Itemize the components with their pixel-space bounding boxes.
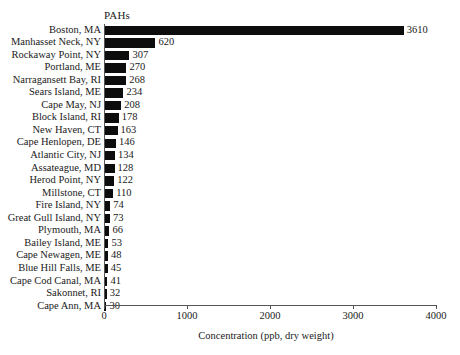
- bar-row: Sears Island, ME234: [104, 87, 436, 100]
- bar: [104, 38, 155, 47]
- bar-row: Portland, ME270: [104, 62, 436, 75]
- x-axis-tick-label: 1000: [177, 310, 198, 321]
- category-label: Portland, ME: [44, 60, 101, 73]
- category-label: Plymouth, MA: [38, 223, 101, 236]
- bar: [104, 63, 126, 72]
- bar-chart: PAHs Boston, MA3610Manhasset Neck, NY620…: [0, 0, 460, 355]
- bar: [104, 126, 118, 135]
- bar-value-label: 208: [121, 98, 140, 111]
- category-label: Assateague, MD: [31, 161, 101, 174]
- bar: [104, 164, 115, 173]
- bar-row: Great Gull Island, NY73: [104, 212, 436, 225]
- category-label: Blue Hill Falls, ME: [18, 261, 101, 274]
- bar: [104, 176, 114, 185]
- category-label: Manhasset Neck, NY: [11, 35, 101, 48]
- bar-row: Blue Hill Falls, ME45: [104, 262, 436, 275]
- bar-value-label: 234: [123, 85, 142, 98]
- bar-row: Assateague, MD128: [104, 162, 436, 175]
- bar-row: Sakonnet, RI32: [104, 288, 436, 301]
- bar-row: Fire Island, NY74: [104, 200, 436, 213]
- category-label: New Haven, CT: [32, 123, 101, 136]
- bar-row: Block Island, RI178: [104, 112, 436, 125]
- bar-row: Herod Point, NY122: [104, 175, 436, 188]
- bar-value-label: 122: [114, 173, 133, 186]
- category-label: Cape Henlopen, DE: [17, 135, 101, 148]
- category-label: Great Gull Island, NY: [8, 211, 101, 224]
- bar-row: Millstone, CT110: [104, 187, 436, 200]
- bar-value-label: 73: [110, 211, 124, 224]
- bar: [104, 88, 123, 97]
- bar-row: New Haven, CT163: [104, 124, 436, 137]
- bar-row: Cape Newagen, ME48: [104, 250, 436, 263]
- bar-value-label: 134: [115, 148, 134, 161]
- x-axis-tick-label: 3000: [343, 310, 364, 321]
- bar-value-label: 66: [109, 223, 123, 236]
- bar-value-label: 32: [107, 286, 121, 299]
- bar-row: Boston, MA3610: [104, 24, 436, 37]
- bar: [104, 139, 116, 148]
- x-axis-tick: [187, 305, 188, 309]
- y-axis-line: [104, 24, 105, 305]
- category-label: Cape Cod Canal, MA: [10, 274, 101, 287]
- bar-value-label: 3610: [404, 23, 428, 36]
- category-label: Cape May, NJ: [41, 98, 101, 111]
- bar: [104, 26, 404, 35]
- x-axis-tick: [270, 305, 271, 309]
- bar: [104, 113, 119, 122]
- bar-value-label: 178: [119, 110, 138, 123]
- x-axis-tick: [436, 305, 437, 309]
- bar: [104, 189, 113, 198]
- bar-row: Bailey Island, ME53: [104, 237, 436, 250]
- bar-value-label: 268: [126, 73, 145, 86]
- x-axis-tick-label: 0: [101, 310, 106, 321]
- category-label: Block Island, RI: [32, 110, 101, 123]
- bar-value-label: 45: [108, 261, 122, 274]
- bar-value-label: 74: [110, 198, 124, 211]
- bar-value-label: 48: [108, 248, 122, 261]
- bar-value-label: 307: [129, 48, 148, 61]
- category-label: Sakonnet, RI: [46, 286, 101, 299]
- category-label: Sears Island, ME: [29, 85, 101, 98]
- category-label: Rockaway Point, NY: [11, 48, 101, 61]
- bar-row: Cape Henlopen, DE146: [104, 137, 436, 150]
- category-label: Narragansett Bay, RI: [13, 73, 101, 86]
- bar: [104, 101, 121, 110]
- bar-value-label: 53: [108, 236, 122, 249]
- chart-title: PAHs: [104, 9, 130, 21]
- category-label: Atlantic City, NJ: [30, 148, 101, 161]
- bar-row: Manhasset Neck, NY620: [104, 37, 436, 50]
- bar-row: Cape Cod Canal, MA41: [104, 275, 436, 288]
- x-axis-tick-label: 2000: [260, 310, 281, 321]
- category-label: Cape Ann, MA: [37, 299, 101, 312]
- bar-value-label: 41: [107, 274, 121, 287]
- category-label: Cape Newagen, ME: [16, 248, 101, 261]
- bar-row: Narragansett Bay, RI268: [104, 74, 436, 87]
- category-label: Bailey Island, ME: [24, 236, 101, 249]
- category-label: Herod Point, NY: [30, 173, 101, 186]
- bar-row: Plymouth, MA66: [104, 225, 436, 238]
- bar-value-label: 270: [126, 60, 145, 73]
- bar-row: Rockaway Point, NY307: [104, 49, 436, 62]
- x-axis-tick: [353, 305, 354, 309]
- x-axis-tick-label: 4000: [426, 310, 447, 321]
- bar-value-label: 163: [118, 123, 137, 136]
- bar-row: Atlantic City, NJ134: [104, 150, 436, 163]
- bar-row: Cape May, NJ208: [104, 99, 436, 112]
- bar-value-label: 110: [113, 186, 131, 199]
- bar: [104, 51, 129, 60]
- bar-value-label: 620: [155, 35, 174, 48]
- x-axis-tick: [104, 305, 105, 309]
- x-axis-title-label: Concentration (ppb, dry weight): [126, 330, 333, 341]
- category-label: Millstone, CT: [42, 186, 101, 199]
- category-label: Boston, MA: [49, 23, 101, 36]
- category-label: Fire Island, NY: [35, 198, 101, 211]
- bar-value-label: 128: [115, 161, 134, 174]
- plot-area: Boston, MA3610Manhasset Neck, NY620Rocka…: [104, 24, 436, 304]
- bar-value-label: 146: [116, 135, 135, 148]
- bar: [104, 151, 115, 160]
- bar: [104, 76, 126, 85]
- x-axis-title: Concentration (ppb, dry weight): [0, 330, 460, 341]
